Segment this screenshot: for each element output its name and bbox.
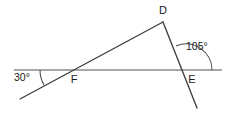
angle-arc-30-at-f bbox=[40, 70, 44, 85]
vertex-label-d: D bbox=[159, 4, 167, 16]
vertex-label-f: F bbox=[71, 73, 78, 85]
geometry-diagram-canvas: D F E 30° 105° bbox=[0, 0, 230, 115]
geometry-figure: D F E 30° 105° bbox=[0, 0, 230, 115]
transversal-line-fd bbox=[20, 22, 163, 99]
angle-measure-label-105: 105° bbox=[186, 40, 208, 52]
line-de-extended bbox=[163, 22, 197, 108]
angle-measure-label-30: 30° bbox=[14, 71, 30, 83]
vertex-label-e: E bbox=[188, 73, 195, 85]
